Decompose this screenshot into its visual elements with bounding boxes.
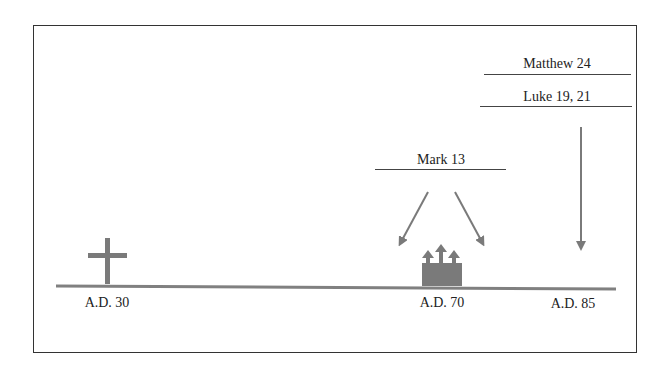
matthew-rule — [484, 74, 631, 75]
luke-rule — [480, 106, 632, 107]
date-label-30: A.D. 30 — [85, 295, 130, 311]
date-label-85: A.D. 85 — [551, 296, 596, 312]
date-label-70: A.D. 70 — [420, 295, 465, 311]
mark-right-arrow — [455, 192, 482, 242]
mark-label: Mark 13 — [417, 152, 465, 168]
mark-left-arrow — [401, 192, 428, 242]
luke-label: Luke 19, 21 — [523, 89, 590, 105]
timeline-axis — [56, 286, 616, 289]
matthew-label: Matthew 24 — [523, 56, 590, 72]
cross-icon — [88, 238, 127, 284]
temple-icon — [422, 244, 462, 286]
mark-rule — [375, 169, 506, 170]
